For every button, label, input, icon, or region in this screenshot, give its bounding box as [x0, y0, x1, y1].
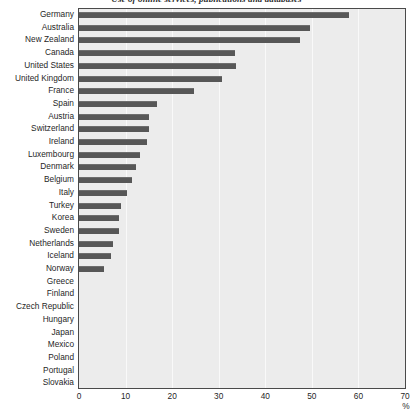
bar	[79, 152, 140, 158]
bar	[79, 190, 127, 196]
bar-row	[79, 187, 407, 200]
category-label: Greece	[47, 275, 74, 288]
bar	[79, 215, 119, 221]
bar-row	[79, 352, 407, 365]
bar-row	[79, 327, 407, 340]
category-label: Poland	[48, 351, 74, 364]
category-label: Germany	[40, 8, 74, 21]
chart-title: Use of online services, publications and…	[0, 0, 413, 6]
category-label: Denmark	[40, 160, 74, 173]
plot-area	[78, 8, 406, 389]
category-label: Norway	[46, 262, 74, 275]
bar-row	[79, 73, 407, 86]
category-label: Luxembourg	[28, 148, 74, 161]
bar	[79, 203, 121, 209]
category-label: United States	[24, 59, 74, 72]
bar-row	[79, 263, 407, 276]
bar	[79, 76, 222, 82]
category-label: Japan	[51, 326, 74, 339]
bar	[79, 241, 113, 247]
x-axis-tick-label: 50	[307, 391, 316, 401]
category-label: Portugal	[43, 364, 74, 377]
x-axis-tick-label: 20	[168, 391, 177, 401]
bar-row	[79, 111, 407, 124]
bar-row	[79, 9, 407, 22]
x-axis-tick-label: 60	[354, 391, 363, 401]
category-label: Canada	[45, 46, 74, 59]
bar-row	[79, 314, 407, 327]
category-label: Iceland	[47, 249, 74, 262]
category-label: Australia	[42, 21, 74, 34]
bar-row	[79, 339, 407, 352]
bar	[79, 164, 136, 170]
bar	[79, 139, 147, 145]
bar-row	[79, 276, 407, 289]
bar	[79, 101, 157, 107]
bar	[79, 228, 119, 234]
bar	[79, 63, 236, 69]
category-axis-labels: GermanyAustraliaNew ZealandCanadaUnited …	[0, 8, 74, 389]
category-label: Czech Republic	[16, 300, 74, 313]
category-label: Belgium	[44, 173, 74, 186]
bar	[79, 25, 310, 31]
category-label: Sweden	[44, 224, 74, 237]
bar-row	[79, 34, 407, 47]
category-label: Slovakia	[43, 376, 74, 389]
category-label: Netherlands	[29, 237, 74, 250]
category-label: Italy	[59, 186, 74, 199]
category-label: France	[48, 84, 74, 97]
bar-row	[79, 136, 407, 149]
bar-row	[79, 98, 407, 111]
bar-row	[79, 60, 407, 73]
category-label: Austria	[48, 110, 74, 123]
bar-row	[79, 85, 407, 98]
x-axis-tick-label: 30	[214, 391, 223, 401]
bar-row	[79, 250, 407, 263]
bar-row	[79, 365, 407, 378]
bar	[79, 253, 111, 259]
category-label: Turkey	[49, 199, 74, 212]
bar	[79, 177, 132, 183]
bar	[79, 126, 149, 132]
category-label: New Zealand	[25, 33, 74, 46]
bar-row	[79, 161, 407, 174]
bar-row	[79, 47, 407, 60]
bar-row	[79, 225, 407, 238]
bar-row	[79, 238, 407, 251]
bar-row	[79, 301, 407, 314]
category-label: United Kingdom	[15, 72, 74, 85]
category-label: Finland	[47, 287, 74, 300]
x-axis-tick-label: 0	[77, 391, 82, 401]
bar	[79, 88, 194, 94]
x-axis-tick-label: 40	[261, 391, 270, 401]
category-label: Spain	[53, 97, 74, 110]
x-axis: % 010203040506070	[0, 389, 413, 419]
x-axis-unit-label: %	[402, 401, 409, 411]
bar-row	[79, 377, 407, 390]
bar-row	[79, 212, 407, 225]
bar-row	[79, 123, 407, 136]
category-label: Hungary	[43, 313, 74, 326]
bar-row	[79, 174, 407, 187]
bar	[79, 266, 104, 272]
bar	[79, 12, 349, 18]
chart-container: Use of online services, publications and…	[0, 0, 413, 419]
bar-row	[79, 288, 407, 301]
category-label: Ireland	[49, 135, 74, 148]
x-axis-tick-label: 10	[121, 391, 130, 401]
bar	[79, 37, 300, 43]
bar	[79, 50, 235, 56]
bar-row	[79, 22, 407, 35]
category-label: Mexico	[48, 338, 74, 351]
bar	[79, 114, 149, 120]
category-label: Switzerland	[31, 122, 74, 135]
bar-rows	[79, 9, 405, 388]
bar-row	[79, 149, 407, 162]
category-label: Korea	[52, 211, 74, 224]
bar-row	[79, 200, 407, 213]
x-axis-tick-label: 70	[400, 391, 409, 401]
